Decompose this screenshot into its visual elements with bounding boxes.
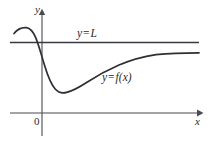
asymptote-label: y=L bbox=[77, 28, 97, 40]
x-axis-label: x bbox=[195, 116, 200, 127]
asymptote-label-equals: = bbox=[82, 27, 91, 39]
function-label-rhs: f(x) bbox=[116, 71, 132, 83]
y-axis-label: y bbox=[35, 4, 40, 15]
function-label-equals: = bbox=[107, 71, 116, 83]
function-label: y=f(x) bbox=[102, 72, 132, 84]
asymptote-label-rhs: L bbox=[91, 27, 97, 39]
limit-graph-figure: y x 0 y=L y=f(x) bbox=[0, 0, 211, 144]
origin-label: 0 bbox=[34, 116, 40, 127]
